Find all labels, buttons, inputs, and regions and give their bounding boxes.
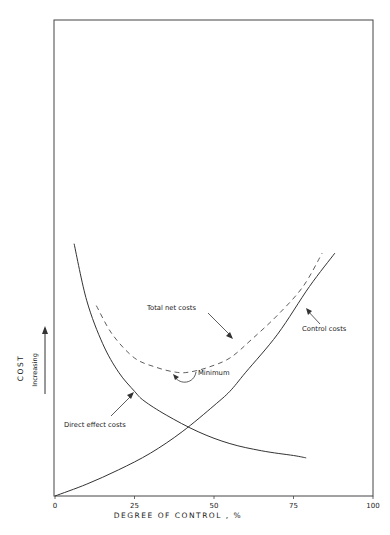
annotation-direct-effect-costs: Direct effect costs <box>64 421 126 429</box>
series-total-net-costs <box>96 253 322 373</box>
series-control-costs <box>55 253 335 496</box>
x-axis-label: DEGREE OF CONTROL , % <box>114 511 242 520</box>
arrow-minimum <box>173 372 196 382</box>
annotation-total-net-costs: Total net costs <box>146 304 196 312</box>
y-axis-label: COST <box>16 355 25 381</box>
annotation-control-costs: Control costs <box>302 325 347 333</box>
x-tick-label: 0 <box>53 502 57 510</box>
x-tick-label: 75 <box>289 502 298 510</box>
cost-chart: 0255075100 DEGREE OF CONTROL , % COST In… <box>0 0 390 535</box>
arrow-total-net-costs <box>208 313 233 339</box>
arrow-direct-effect-costs <box>111 392 134 416</box>
annotation-minimum: Minimum <box>198 369 230 377</box>
increasing-arrow <box>42 326 48 394</box>
x-tick-label: 100 <box>366 502 379 510</box>
y-axis-sublabel: Increasing <box>31 353 39 387</box>
x-tick-label: 25 <box>130 502 139 510</box>
x-tick-label: 50 <box>210 502 219 510</box>
arrow-control-costs <box>306 308 320 324</box>
